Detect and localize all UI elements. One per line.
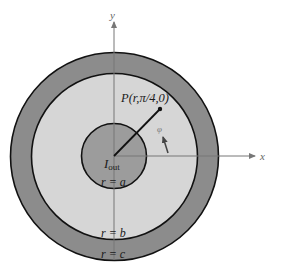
radius-b-label: r = b xyxy=(101,226,126,240)
point-P-label: P(r,π/4,0) xyxy=(120,91,169,105)
y-axis-label: y xyxy=(109,9,115,21)
point-P xyxy=(158,107,162,111)
radius-a-label: r = a xyxy=(101,175,126,189)
phi-label: φ xyxy=(157,124,162,134)
coax-diagram: y x P(r,π/4,0) φ Iout r = a r = b r = c xyxy=(0,0,281,270)
x-axis-label: x xyxy=(259,150,265,162)
radius-c-label: r = c xyxy=(101,247,126,261)
